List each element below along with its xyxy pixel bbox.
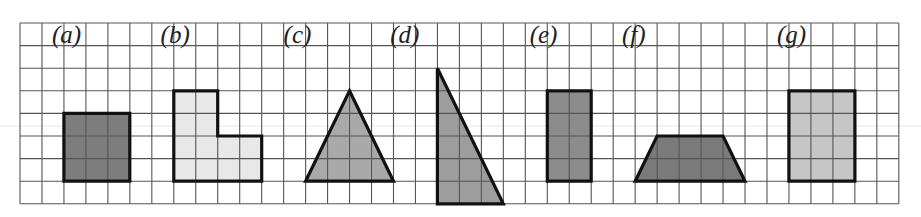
shape-a-fill <box>64 113 130 181</box>
shape-label-e: (e) <box>530 21 558 49</box>
shape-label-a: (a) <box>52 21 81 49</box>
shape-label-b: (b) <box>161 21 190 49</box>
shape-label-f: (f) <box>622 21 646 49</box>
shapes-on-grid-figure: (a)(b)(c)(d)(e)(f)(g) <box>0 0 921 217</box>
shape-label-c: (c) <box>284 21 312 49</box>
shape-label-g: (g) <box>777 21 806 49</box>
shape-label-d: (d) <box>390 21 419 49</box>
